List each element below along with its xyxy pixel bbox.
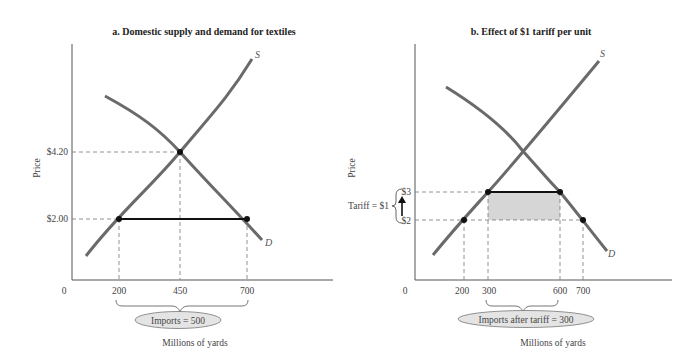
x-tick-200: 200 bbox=[112, 286, 127, 296]
y-tick-2: $2 bbox=[402, 216, 412, 226]
demand-point-before-tariff bbox=[580, 217, 586, 223]
x-tick-700: 700 bbox=[240, 286, 255, 296]
supply-label: S bbox=[600, 48, 605, 59]
y-tick-3: $3 bbox=[402, 187, 412, 197]
x-tick-600: 600 bbox=[553, 286, 568, 296]
supply-point-after-tariff bbox=[485, 189, 491, 195]
x-axis-label: Millions of yards bbox=[162, 338, 228, 348]
panel-a-title: a. Domestic supply and demand for textil… bbox=[112, 26, 296, 37]
y-tick-4-20: $4.20 bbox=[47, 147, 69, 157]
equilibrium-point bbox=[177, 149, 183, 155]
y-axis-label: Price bbox=[347, 158, 357, 178]
tariff-revenue-area bbox=[488, 192, 560, 220]
tariff-label: Tariff = $1 bbox=[348, 201, 389, 211]
up-arrow-icon bbox=[398, 196, 406, 203]
tariff-brace bbox=[392, 189, 402, 223]
x-axis-label: Millions of yards bbox=[520, 338, 586, 348]
y-tick-2-00: $2.00 bbox=[47, 214, 69, 224]
x-origin: 0 bbox=[62, 286, 67, 296]
panel-b: b. Effect of $1 tariff per unit S D bbox=[347, 26, 672, 348]
demand-curve bbox=[446, 87, 607, 251]
x-tick-300: 300 bbox=[482, 286, 497, 296]
imports-label: Imports = 500 bbox=[151, 316, 205, 326]
supply-label: S bbox=[255, 49, 260, 60]
guide-lines bbox=[72, 152, 247, 280]
panel-a: a. Domestic supply and demand for textil… bbox=[32, 26, 333, 348]
demand-label: D bbox=[607, 248, 616, 259]
demand-point bbox=[244, 216, 250, 222]
x-origin: 0 bbox=[403, 286, 408, 296]
supply-point bbox=[116, 216, 122, 222]
imports-brace bbox=[116, 300, 248, 312]
imports-label: Imports after tariff = 300 bbox=[479, 315, 574, 325]
x-tick-450: 450 bbox=[173, 286, 188, 296]
supply-point-before-tariff bbox=[461, 217, 467, 223]
y-axis-label: Price bbox=[32, 158, 42, 178]
figure-canvas: a. Domestic supply and demand for textil… bbox=[0, 0, 693, 364]
x-tick-200: 200 bbox=[455, 286, 470, 296]
demand-point-after-tariff bbox=[557, 189, 563, 195]
supply-curve bbox=[86, 59, 252, 256]
demand-label: D bbox=[264, 237, 273, 248]
x-tick-700: 700 bbox=[576, 286, 591, 296]
panel-b-title: b. Effect of $1 tariff per unit bbox=[471, 26, 592, 37]
supply-curve bbox=[433, 61, 599, 255]
